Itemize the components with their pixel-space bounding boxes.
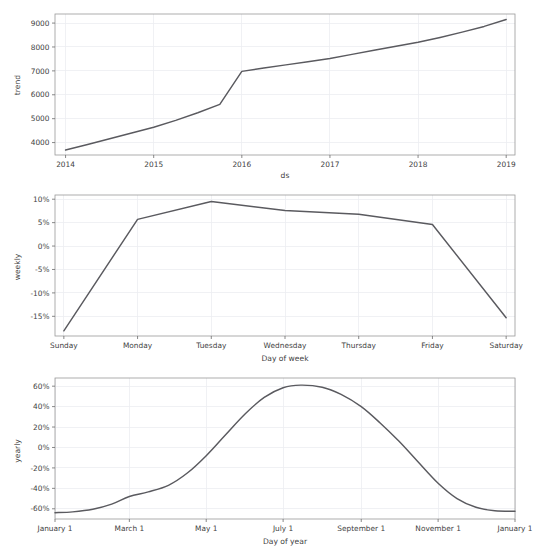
svg-text:Thursday: Thursday (341, 341, 377, 350)
weekly-grid (55, 195, 515, 336)
svg-text:10%: 10% (33, 195, 49, 204)
yearly-panel: 60%40%20%0%-20%-40%-60%January 1March 1M… (0, 365, 534, 548)
svg-text:40%: 40% (33, 402, 49, 411)
svg-text:20%: 20% (33, 423, 49, 432)
weekly-plot-svg: 10%5%0%-5%-10%-15%SundayMondayTuesdayWed… (0, 182, 534, 365)
svg-text:-15%: -15% (30, 312, 49, 321)
svg-text:4000: 4000 (31, 138, 50, 147)
svg-text:-20%: -20% (30, 464, 49, 473)
svg-text:9000: 9000 (31, 19, 50, 28)
yearly-ticklabels: 60%40%20%0%-20%-40%-60%January 1March 1M… (30, 382, 532, 533)
trend-y-axis-title: trend (13, 75, 22, 95)
svg-text:November 1: November 1 (415, 524, 461, 533)
yearly-grid (55, 378, 515, 519)
svg-text:-5%: -5% (35, 265, 49, 274)
svg-text:Sunday: Sunday (50, 341, 78, 350)
svg-text:5%: 5% (38, 218, 50, 227)
svg-text:2017: 2017 (321, 160, 340, 169)
svg-text:60%: 60% (33, 382, 49, 391)
svg-text:2014: 2014 (56, 160, 75, 169)
svg-text:2016: 2016 (232, 160, 251, 169)
svg-text:September 1: September 1 (337, 524, 385, 533)
svg-text:0%: 0% (38, 443, 50, 452)
svg-text:8000: 8000 (31, 43, 50, 52)
weekly-ticklabels: 10%5%0%-5%-10%-15%SundayMondayTuesdayWed… (30, 195, 523, 350)
svg-text:2019: 2019 (497, 160, 516, 169)
svg-text:Saturday: Saturday (489, 341, 523, 350)
svg-text:2015: 2015 (144, 160, 163, 169)
svg-text:January 1: January 1 (36, 524, 72, 533)
svg-text:January 1: January 1 (496, 524, 532, 533)
svg-text:7000: 7000 (31, 67, 50, 76)
weekly-x-axis-title: Day of week (261, 354, 309, 363)
prophet-components-figure: 4000500060007000800090002014201520162017… (0, 0, 534, 548)
svg-text:5000: 5000 (31, 114, 50, 123)
trend-data-line (66, 20, 507, 150)
svg-text:July 1: July 1 (272, 524, 294, 533)
svg-text:0%: 0% (38, 242, 50, 251)
weekly-y-axis-title: weekly (13, 253, 22, 280)
trend-x-axis-title: ds (281, 171, 290, 180)
yearly-plot-svg: 60%40%20%0%-20%-40%-60%January 1March 1M… (0, 365, 534, 548)
svg-text:Wednesday: Wednesday (264, 341, 307, 350)
svg-text:6000: 6000 (31, 90, 50, 99)
trend-ticklabels: 4000500060007000800090002014201520162017… (31, 19, 516, 169)
svg-text:March 1: March 1 (115, 524, 145, 533)
svg-text:2018: 2018 (409, 160, 428, 169)
svg-text:Tuesday: Tuesday (195, 341, 227, 350)
svg-text:May 1: May 1 (195, 524, 218, 533)
trend-plot-svg: 4000500060007000800090002014201520162017… (0, 0, 534, 182)
yearly-y-axis-title: yearly (13, 439, 22, 463)
svg-text:-60%: -60% (30, 504, 49, 513)
svg-text:-10%: -10% (30, 289, 49, 298)
svg-text:Friday: Friday (421, 341, 444, 350)
yearly-data-line (55, 385, 515, 513)
svg-text:Monday: Monday (123, 341, 153, 350)
trend-grid (55, 14, 515, 155)
trend-panel: 4000500060007000800090002014201520162017… (0, 0, 534, 182)
svg-text:-40%: -40% (30, 484, 49, 493)
weekly-axes (52, 195, 515, 339)
weekly-panel: 10%5%0%-5%-10%-15%SundayMondayTuesdayWed… (0, 182, 534, 365)
yearly-x-axis-title: Day of year (263, 537, 308, 546)
